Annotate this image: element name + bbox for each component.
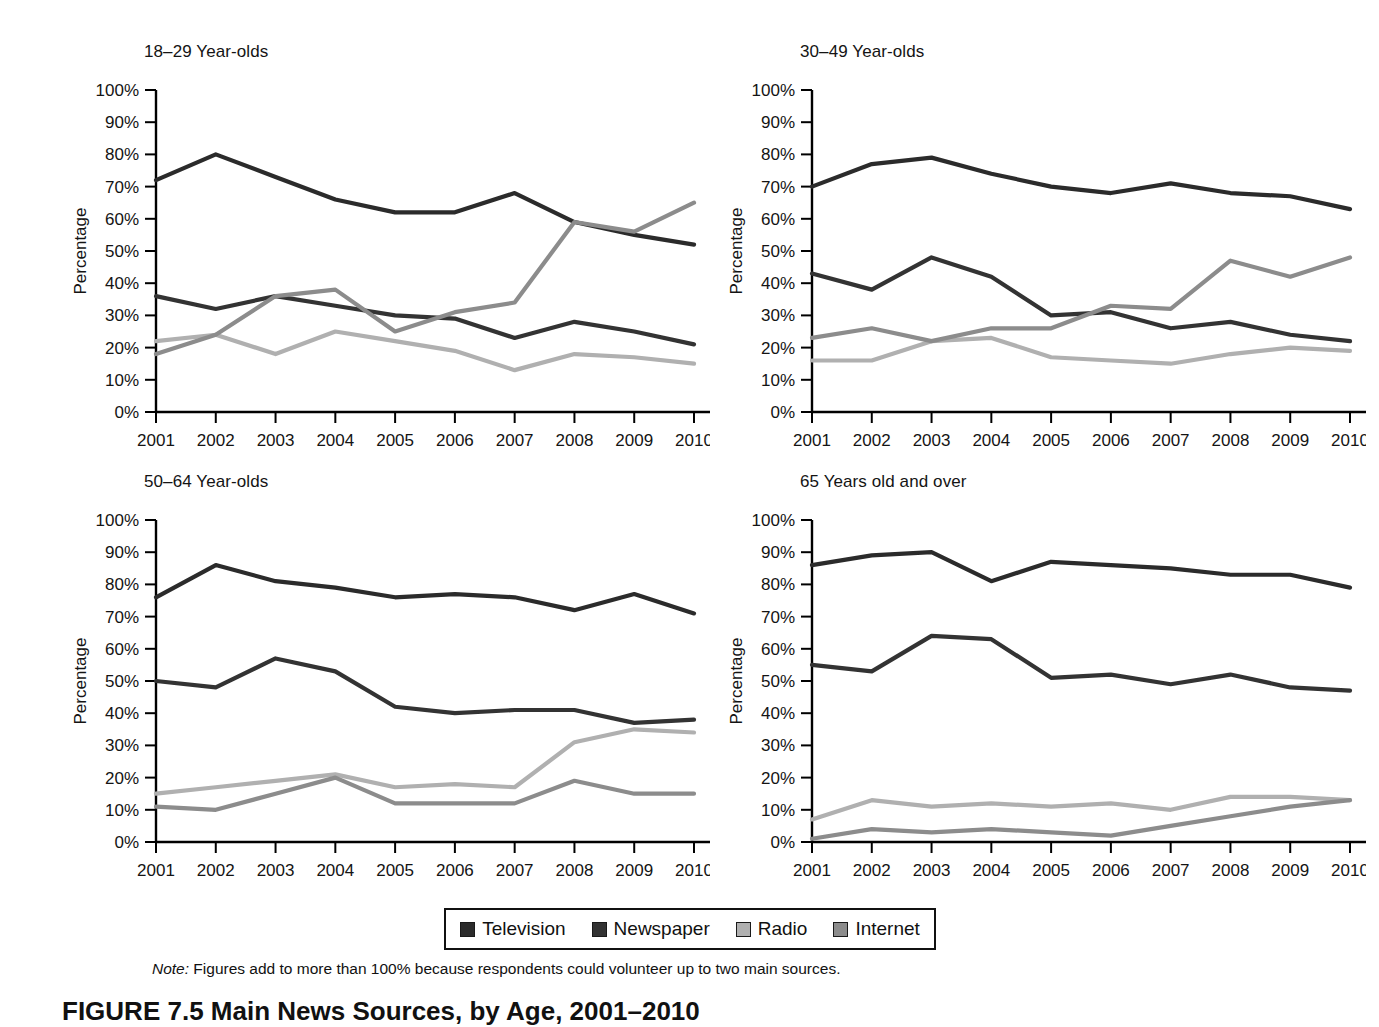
y-tick-label: 30% (105, 736, 139, 755)
x-tick-label: 2003 (257, 431, 295, 450)
panel-plot: Percentage0%10%20%30%40%50%60%70%80%90%1… (716, 62, 1366, 466)
x-tick-label: 2006 (436, 861, 474, 880)
series-line-television (812, 158, 1350, 210)
panel-title: 65 Years old and over (800, 472, 967, 492)
x-tick-label: 2001 (137, 431, 175, 450)
y-tick-label: 80% (761, 575, 795, 594)
x-tick-label: 2006 (436, 431, 474, 450)
y-tick-label: 40% (761, 704, 795, 723)
y-axis-title: Percentage (71, 638, 90, 725)
note-text: Figures add to more than 100% because re… (189, 960, 840, 977)
legend-label: Radio (758, 918, 808, 940)
x-tick-label: 2003 (913, 861, 951, 880)
x-tick-label: 2004 (972, 861, 1010, 880)
y-tick-label: 70% (105, 178, 139, 197)
chart-svg: Percentage0%10%20%30%40%50%60%70%80%90%1… (60, 62, 710, 462)
panel-plot: Percentage0%10%20%30%40%50%60%70%80%90%1… (716, 492, 1366, 896)
panel-65-over: 65 Years old and over Percentage0%10%20%… (716, 466, 1366, 896)
x-tick-label: 2009 (1271, 431, 1309, 450)
y-tick-label: 60% (761, 640, 795, 659)
x-tick-label: 2002 (853, 861, 891, 880)
panel-30-49: 30–49 Year-olds Percentage0%10%20%30%40%… (716, 36, 1366, 466)
y-tick-label: 60% (105, 210, 139, 229)
y-tick-label: 80% (105, 145, 139, 164)
y-tick-label: 100% (752, 81, 795, 100)
figure-note: Note: Figures add to more than 100% beca… (152, 960, 840, 978)
figure-caption: FIGURE 7.5 Main News Sources, by Age, 20… (62, 996, 700, 1027)
y-tick-label: 10% (105, 801, 139, 820)
y-tick-label: 50% (761, 672, 795, 691)
x-tick-label: 2006 (1092, 861, 1130, 880)
y-tick-label: 70% (761, 608, 795, 627)
legend-swatch-icon (592, 922, 607, 937)
legend-swatch-icon (460, 922, 475, 937)
y-tick-label: 50% (105, 242, 139, 261)
y-tick-label: 90% (105, 543, 139, 562)
y-tick-label: 90% (105, 113, 139, 132)
y-tick-label: 100% (96, 511, 139, 530)
y-tick-label: 90% (761, 113, 795, 132)
y-tick-label: 50% (105, 672, 139, 691)
x-tick-label: 2005 (1032, 861, 1070, 880)
series-line-radio (812, 338, 1350, 364)
y-tick-label: 40% (105, 274, 139, 293)
x-tick-label: 2005 (376, 861, 414, 880)
legend-label: Newspaper (614, 918, 710, 940)
panel-plot: Percentage0%10%20%30%40%50%60%70%80%90%1… (60, 492, 710, 896)
y-tick-label: 30% (761, 306, 795, 325)
legend-swatch-icon (736, 922, 751, 937)
x-tick-label: 2002 (197, 861, 235, 880)
series-line-internet (156, 203, 694, 354)
y-axis-title: Percentage (727, 638, 746, 725)
chart-svg: Percentage0%10%20%30%40%50%60%70%80%90%1… (716, 62, 1366, 462)
series-line-television (812, 552, 1350, 587)
legend-item: Newspaper (592, 918, 710, 940)
y-tick-label: 0% (114, 833, 139, 852)
legend-item: Television (460, 918, 565, 940)
x-tick-label: 2010 (1331, 431, 1366, 450)
x-tick-label: 2009 (615, 431, 653, 450)
legend-label: Internet (855, 918, 919, 940)
x-tick-label: 2010 (1331, 861, 1366, 880)
panel-title: 50–64 Year-olds (144, 472, 268, 492)
x-tick-label: 2001 (793, 861, 831, 880)
x-tick-label: 2004 (316, 431, 354, 450)
x-tick-label: 2001 (793, 431, 831, 450)
series-line-television (156, 565, 694, 613)
x-tick-label: 2006 (1092, 431, 1130, 450)
y-tick-label: 20% (761, 339, 795, 358)
y-tick-label: 10% (761, 371, 795, 390)
series-line-radio (156, 332, 694, 371)
series-line-newspaper (156, 658, 694, 722)
series-line-newspaper (812, 636, 1350, 691)
y-tick-label: 0% (770, 403, 795, 422)
x-tick-label: 2009 (615, 861, 653, 880)
x-tick-label: 2004 (316, 861, 354, 880)
y-tick-label: 10% (105, 371, 139, 390)
series-line-internet (156, 778, 694, 810)
panel-title: 30–49 Year-olds (800, 42, 924, 62)
y-tick-label: 30% (761, 736, 795, 755)
y-tick-label: 60% (105, 640, 139, 659)
x-tick-label: 2008 (556, 431, 594, 450)
x-tick-label: 2007 (496, 861, 534, 880)
x-tick-label: 2005 (1032, 431, 1070, 450)
y-tick-label: 40% (761, 274, 795, 293)
x-tick-label: 2008 (556, 861, 594, 880)
panel-title: 18–29 Year-olds (144, 42, 268, 62)
y-tick-label: 10% (761, 801, 795, 820)
x-tick-label: 2010 (675, 431, 710, 450)
x-tick-label: 2002 (853, 431, 891, 450)
panel-18-29: 18–29 Year-olds Percentage0%10%20%30%40%… (60, 36, 710, 466)
y-tick-label: 50% (761, 242, 795, 261)
note-label: Note: (152, 960, 189, 977)
y-tick-label: 80% (105, 575, 139, 594)
legend-label: Television (482, 918, 565, 940)
legend-swatch-icon (833, 922, 848, 937)
y-tick-label: 20% (105, 339, 139, 358)
y-axis-title: Percentage (727, 208, 746, 295)
x-tick-label: 2007 (1152, 861, 1190, 880)
y-axis-title: Percentage (71, 208, 90, 295)
x-tick-label: 2008 (1212, 431, 1250, 450)
y-tick-label: 0% (114, 403, 139, 422)
